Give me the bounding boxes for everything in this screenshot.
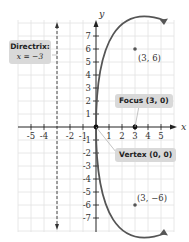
svg-text:1: 1 <box>86 109 91 119</box>
graph-canvas: -5 -4 -2 -1 1 2 3 4 5 1 2 3 4 5 6 7 -1 -… <box>0 0 189 242</box>
svg-text:-4: -4 <box>40 131 48 141</box>
tick-labels: -5 -4 -2 -1 1 2 3 4 5 1 2 3 4 5 6 7 -1 -… <box>27 8 187 223</box>
svg-text:-4: -4 <box>83 174 91 184</box>
svg-text:3: 3 <box>86 83 91 93</box>
focus-callout: Focus (3, 0) <box>115 94 173 108</box>
svg-text:5: 5 <box>158 131 163 141</box>
svg-text:4: 4 <box>145 131 150 141</box>
svg-text:-5: -5 <box>27 131 35 141</box>
arrow-right-icon <box>170 125 177 130</box>
directrix-title: Directrix: <box>9 42 51 52</box>
arrow-up-icon <box>94 20 99 27</box>
svg-text:-5: -5 <box>83 187 91 197</box>
svg-text:7: 7 <box>86 31 91 41</box>
x-axis-label: x <box>181 121 187 132</box>
parabola-diagram: -5 -4 -2 -1 1 2 3 4 5 1 2 3 4 5 6 7 -1 -… <box>0 0 189 242</box>
svg-text:6: 6 <box>86 44 91 54</box>
svg-text:2: 2 <box>119 131 124 141</box>
svg-text:-3: -3 <box>83 161 91 171</box>
svg-text:-6: -6 <box>83 200 91 210</box>
directrix-equation: x = −3 <box>9 52 51 62</box>
point-label-3-neg6: (3, −6) <box>137 193 167 203</box>
svg-text:-1: -1 <box>83 135 91 145</box>
svg-text:4: 4 <box>86 70 91 80</box>
svg-text:-7: -7 <box>83 213 91 223</box>
svg-text:3: 3 <box>132 131 137 141</box>
directrix-callout: Directrix: x = −3 <box>9 40 51 64</box>
directrix-line <box>55 22 59 230</box>
point-3-6 <box>133 47 137 51</box>
svg-text:5: 5 <box>86 57 91 67</box>
svg-text:2: 2 <box>86 96 91 106</box>
arrow-down-icon <box>55 224 59 230</box>
svg-text:-2: -2 <box>66 131 74 141</box>
svg-text:1: 1 <box>106 131 111 141</box>
vertex-callout: Vertex (0, 0) <box>115 148 176 162</box>
point-3-neg6 <box>133 203 137 207</box>
svg-text:-2: -2 <box>83 148 91 158</box>
y-axis-label: y <box>98 8 105 19</box>
point-label-3-6: (3, 6) <box>138 53 161 63</box>
